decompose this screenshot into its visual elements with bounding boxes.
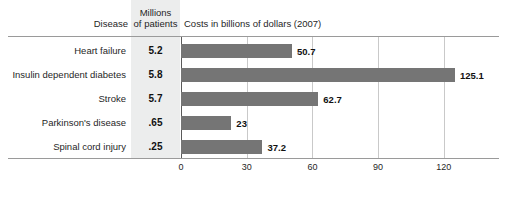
row-label-disease: Spinal cord injury: [0, 141, 126, 153]
bar: [181, 140, 262, 154]
x-tick-60: 60: [307, 162, 317, 173]
bar-value-label: 125.1: [460, 69, 484, 82]
chart-row: Spinal cord injury.2537.2: [0, 138, 507, 158]
chart-row: Stroke5.762.7: [0, 90, 507, 110]
disease-cost-chart: Disease Millions of patients Costs in bi…: [0, 0, 507, 197]
x-tick-0: 0: [178, 162, 183, 173]
row-value-patients: .65: [131, 117, 180, 129]
x-tick-120: 120: [436, 162, 451, 173]
row-label-disease: Insulin dependent diabetes: [0, 69, 126, 81]
bar-value-label: 23: [236, 117, 247, 130]
source-credit: [330, 189, 502, 197]
bar: [181, 44, 292, 58]
row-value-patients: 5.7: [131, 93, 180, 105]
chart-row: Parkinson's disease.6523: [0, 114, 507, 134]
column-header-disease: Disease: [0, 18, 128, 29]
row-label-disease: Stroke: [0, 93, 126, 105]
row-value-patients: 5.2: [131, 45, 180, 57]
row-label-disease: Parkinson's disease: [0, 117, 126, 129]
chart-row: Insulin dependent diabetes5.8125.1: [0, 66, 507, 86]
x-tick-30: 30: [242, 162, 252, 173]
bar: [181, 116, 231, 130]
column-header-costs: Costs in billions of dollars (2007): [184, 18, 321, 29]
column-header-millions-line2: of patients: [131, 18, 180, 29]
bar-value-label: 37.2: [267, 141, 286, 154]
bar: [181, 68, 455, 82]
bar-value-label: 62.7: [323, 93, 342, 106]
header-rule: [8, 36, 499, 37]
bar-value-label: 50.7: [297, 45, 316, 58]
chart-row: Heart failure5.250.7: [0, 42, 507, 62]
column-header-millions-of-patients: Millions of patients: [131, 7, 180, 29]
row-label-disease: Heart failure: [0, 45, 126, 57]
footer-rule: [8, 158, 499, 159]
row-value-patients: .25: [131, 141, 180, 153]
bar: [181, 92, 318, 106]
column-header-millions-line1: Millions: [131, 7, 180, 18]
x-tick-90: 90: [373, 162, 383, 173]
row-value-patients: 5.8: [131, 69, 180, 81]
